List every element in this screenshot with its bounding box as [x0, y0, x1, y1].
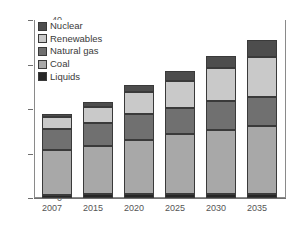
- x-axis-label-2020: 2020: [112, 203, 156, 213]
- bar-segment-2035-coal: [247, 126, 277, 193]
- bar-segment-2020-natural-gas: [124, 114, 154, 140]
- legend-swatch-coal-icon: [38, 60, 47, 69]
- bar-segment-2035-liquids: [247, 194, 277, 198]
- bar-segment-2020-nuclear: [124, 85, 154, 93]
- bar-segment-2007-coal: [42, 150, 72, 195]
- chart-legend: Nuclear Renewables Natural gas Coal Liqu…: [38, 20, 102, 83]
- bar-segment-2007-renewables: [42, 117, 72, 130]
- bar-segment-2035-natural-gas: [247, 97, 277, 126]
- bar-segment-2030-liquids: [206, 194, 236, 198]
- bar-segment-2015-natural-gas: [83, 123, 113, 145]
- legend-item-coal: Coal: [38, 58, 102, 71]
- y-tick-mark-0: [28, 198, 33, 199]
- bar-2035: [247, 20, 277, 198]
- bar-2030: [206, 20, 236, 198]
- x-axis-label-2025: 2025: [153, 203, 197, 213]
- bar-segment-2020-coal: [124, 140, 154, 194]
- bar-segment-2035-renewables: [247, 57, 277, 97]
- bar-2020: [124, 20, 154, 198]
- legend-label-coal: Coal: [50, 59, 70, 69]
- bar-segment-2020-renewables: [124, 92, 154, 114]
- bar-segment-2025-renewables: [165, 81, 195, 108]
- bar-segment-2035-nuclear: [247, 40, 277, 57]
- x-axis-label-2035: 2035: [235, 203, 279, 213]
- bar-segment-2015-liquids: [83, 194, 113, 198]
- x-axis-line: [34, 198, 286, 199]
- legend-item-nuclear: Nuclear: [38, 20, 102, 33]
- stacked-bar-chart: 40 30 20 10 0 2007 2015 2020 2025 2030 2…: [0, 0, 308, 230]
- legend-item-liquids: Liquids: [38, 70, 102, 83]
- legend-label-natural-gas: Natural gas: [50, 46, 99, 56]
- bar-segment-2025-liquids: [165, 194, 195, 198]
- y-tick-mark-20: [28, 109, 33, 110]
- bar-segment-2030-coal: [206, 130, 236, 194]
- bar-segment-2030-renewables: [206, 68, 236, 101]
- legend-swatch-liquids-icon: [38, 72, 47, 81]
- x-axis-label-2007: 2007: [30, 203, 74, 213]
- legend-item-natural-gas: Natural gas: [38, 45, 102, 58]
- bar-2025: [165, 20, 195, 198]
- bar-segment-2007-natural-gas: [42, 129, 72, 149]
- bar-segment-2007-liquids: [42, 195, 72, 198]
- legend-label-renewables: Renewables: [50, 34, 102, 44]
- y-tick-mark-40: [28, 20, 33, 21]
- bar-segment-2015-nuclear: [83, 102, 113, 107]
- bar-segment-2025-nuclear: [165, 71, 195, 80]
- y-tick-mark-10: [28, 154, 33, 155]
- x-axis-label-2030: 2030: [194, 203, 238, 213]
- y-tick-mark-30: [28, 65, 33, 66]
- x-axis-label-2015: 2015: [71, 203, 115, 213]
- legend-item-renewables: Renewables: [38, 33, 102, 46]
- legend-swatch-natural-gas-icon: [38, 47, 47, 56]
- bar-segment-2015-renewables: [83, 107, 113, 123]
- legend-swatch-renewables-icon: [38, 34, 47, 43]
- legend-swatch-nuclear-icon: [38, 22, 47, 31]
- bar-segment-2015-coal: [83, 146, 113, 195]
- bar-segment-2030-natural-gas: [206, 101, 236, 129]
- legend-label-liquids: Liquids: [50, 72, 80, 82]
- bar-segment-2020-liquids: [124, 194, 154, 198]
- bar-segment-2030-nuclear: [206, 56, 236, 68]
- legend-label-nuclear: Nuclear: [50, 21, 83, 31]
- bar-segment-2025-coal: [165, 134, 195, 194]
- bar-segment-2007-nuclear: [42, 114, 72, 116]
- bar-segment-2025-natural-gas: [165, 108, 195, 135]
